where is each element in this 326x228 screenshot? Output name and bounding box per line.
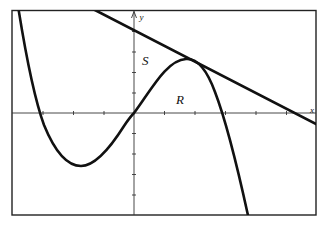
- region-label-s: S: [142, 53, 149, 68]
- plot-background: [0, 0, 326, 228]
- x-axis-label: x: [309, 105, 314, 115]
- y-axis-label: y: [139, 12, 144, 22]
- region-label-r: R: [175, 92, 184, 107]
- graph-figure: y x S R: [0, 0, 326, 228]
